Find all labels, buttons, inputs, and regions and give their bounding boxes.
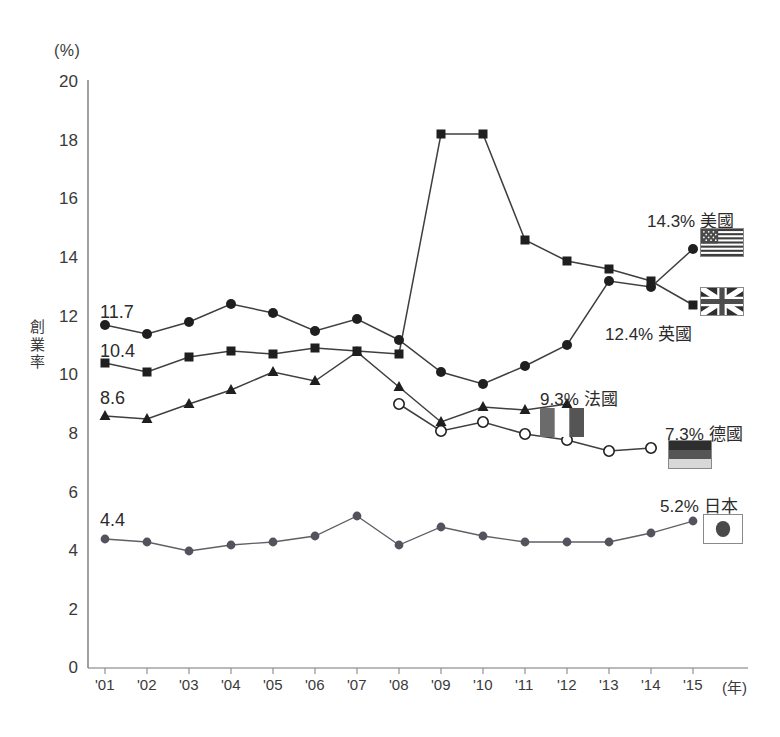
x-axis-ticks	[105, 668, 693, 674]
legend-country-germany: 德國	[709, 425, 743, 444]
legend-label-uk: 12.4%英國	[605, 320, 692, 345]
creation-rate-line-chart: (%) 創 業 率 20 18 16 14 12 10 8 6 4 2 0 '0…	[0, 0, 780, 737]
france-flag-icon	[540, 408, 584, 437]
legend-value-france: 9.3%	[540, 390, 579, 409]
legend-item-france[interactable]: 9.3%法國	[540, 385, 618, 410]
japan-flag-icon	[703, 514, 743, 544]
germany-flag-icon	[668, 440, 712, 469]
us-flag-icon	[700, 228, 744, 257]
legend-value-uk: 12.4%	[605, 325, 653, 344]
uk-flag-icon	[700, 287, 744, 316]
legend-label-france: 9.3%法國	[540, 385, 618, 410]
legend-country-france: 法國	[584, 390, 618, 409]
legend-value-japan: 5.2%	[660, 497, 699, 516]
plot-area	[0, 0, 780, 737]
legend-country-uk: 英國	[658, 325, 692, 344]
series-japan	[101, 512, 698, 556]
axis-lines	[88, 80, 748, 668]
series-france	[100, 346, 573, 426]
legend-item-uk[interactable]: 12.4%英國	[605, 320, 692, 345]
legend-value-us: 14.3%	[647, 212, 695, 231]
